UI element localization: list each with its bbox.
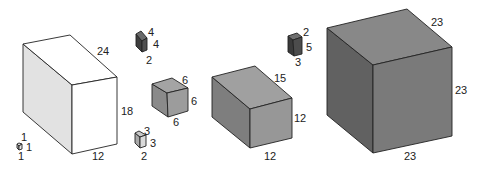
prism-23x23x23: 232323 [327,9,467,162]
dimension-label: 23 [455,84,467,96]
prism-2x3x5: 253 [288,26,312,68]
dimension-label: 6 [191,95,197,107]
front-face [142,38,147,52]
dimension-label: 23 [404,150,416,162]
prism-12x12x15: 151212 [212,66,306,162]
dimension-label: 24 [97,45,109,57]
dimension-label: 4 [148,26,154,38]
dimension-label: 2 [141,150,147,162]
dimension-label: 4 [153,38,159,50]
dimension-label: 18 [121,105,133,117]
dimension-label: 6 [182,74,188,86]
prism-1x1x1: 111 [17,131,32,162]
dimension-label: 3 [144,125,150,137]
prism-2x3x3: 332 [135,125,156,162]
prism-6x6x6: 666 [152,74,197,128]
prism-2x4x4: 442 [136,26,159,66]
prism-diagram: 111241812442666332151212253232323 [0,0,486,169]
prism-12x18x24: 241812 [23,35,133,162]
front-face [293,37,302,56]
dimension-label: 15 [274,72,286,84]
front-face [72,77,117,154]
dimension-label: 12 [264,150,276,162]
dimension-label: 2 [146,54,152,66]
dimension-label: 1 [18,150,24,162]
dimension-label: 12 [294,112,306,124]
dimension-label: 2 [303,26,309,38]
dimension-label: 3 [150,137,156,149]
dimension-label: 1 [26,141,32,153]
dimension-label: 5 [306,41,312,53]
dimension-label: 12 [92,150,104,162]
dimension-label: 23 [431,16,443,28]
dimension-label: 6 [173,116,179,128]
front-face [167,88,188,117]
dimension-label: 3 [295,56,301,68]
front-face [373,47,452,153]
